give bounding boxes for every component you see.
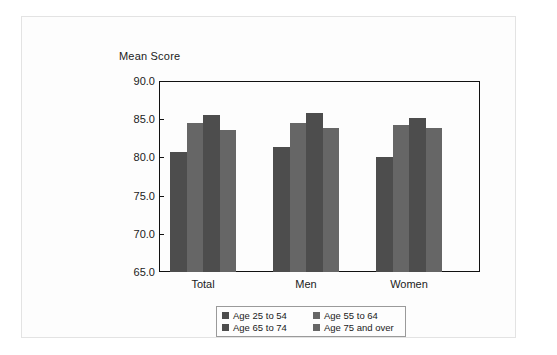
legend-item: Age 55 to 64 [313,311,400,321]
bar [273,147,290,272]
bar [323,128,340,272]
chart-page-panel: Mean Score 65.070.075.080.085.090.0 Age … [21,16,516,338]
bar [290,123,307,272]
legend-item: Age 75 and over [313,323,400,333]
chart-legend: Age 25 to 54Age 55 to 64Age 65 to 74Age … [216,306,406,337]
bar [393,125,410,272]
bar [220,130,237,272]
y-tick-mark [159,157,164,158]
bar [426,128,443,272]
legend-label: Age 75 and over [324,323,394,333]
legend-label: Age 25 to 54 [233,311,287,321]
y-tick-label: 80.0 [134,151,155,163]
x-tick-label: Women [390,278,428,290]
y-tick-mark [159,234,164,235]
y-tick-mark [159,119,164,120]
legend-label: Age 65 to 74 [233,323,287,333]
legend-swatch-icon [222,312,229,319]
legend-swatch-icon [222,324,229,331]
y-tick-mark [159,196,164,197]
bar [376,157,393,272]
y-tick-label: 90.0 [134,75,155,87]
bar [306,113,323,272]
bar [187,123,204,272]
legend-swatch-icon [313,312,320,319]
x-tick-label: Total [191,278,214,290]
bar [203,115,220,272]
legend-label: Age 55 to 64 [324,311,378,321]
y-tick-label: 70.0 [134,228,155,240]
y-axis-tick-labels: 65.070.075.080.085.090.0 [112,81,155,272]
legend-swatch-icon [313,324,320,331]
y-axis-title: Mean Score [119,50,180,62]
x-tick-label: Men [295,278,316,290]
bars-layer [159,81,480,272]
legend-item: Age 25 to 54 [222,311,309,321]
bar [170,152,187,272]
bar [409,118,426,272]
y-tick-label: 75.0 [134,190,155,202]
y-tick-label: 85.0 [134,113,155,125]
y-tick-label: 65.0 [134,266,155,278]
legend-item: Age 65 to 74 [222,323,309,333]
